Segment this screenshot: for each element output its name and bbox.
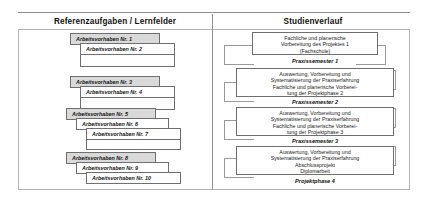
phase-2-line-4: tung der Projektphase 2 — [240, 90, 390, 96]
phase-box-1[interactable]: Fachliche und planerische Vorbereitung d… — [252, 32, 378, 55]
task-group-3-extent — [86, 128, 181, 150]
task-group-1-extent — [80, 43, 175, 67]
semester-label-1: Praxissemester 1 — [252, 58, 378, 64]
phase-4-line-4: Diplomarbeit — [240, 168, 390, 174]
semester-label-2: Praxissemester 2 — [236, 99, 394, 105]
column-divider — [212, 14, 213, 190]
phase-1-line-3: (Fachschule) — [256, 48, 374, 54]
column-header-studienverlauf: Studienverlauf — [216, 17, 410, 26]
phase-box-4[interactable]: Auswertung, Vorbereitung und Systematisi… — [236, 146, 394, 175]
diagram-canvas: Referenzaufgaben / Lernfelder Studienver… — [0, 0, 426, 207]
connector-left-1 — [224, 45, 254, 65]
task-box-10[interactable]: Arbeitsvorhaben Nr. 10 — [86, 172, 181, 184]
top-rule — [18, 12, 410, 13]
column-header-referenzaufgaben: Referenzaufgaben / Lernfelder — [22, 17, 208, 26]
task-group-2-extent — [80, 86, 175, 110]
phase-box-3[interactable]: Auswertung, Vorbereitung und Systematisi… — [236, 107, 394, 136]
semester-label-4: Projektphase 4 — [236, 178, 394, 184]
phase-box-2[interactable]: Auswertung, Vorbereitung und Systematisi… — [236, 68, 394, 97]
semester-label-3: Praxissemester 3 — [236, 138, 394, 144]
phase-3-line-4: tung der Projektphase 3 — [240, 129, 390, 135]
